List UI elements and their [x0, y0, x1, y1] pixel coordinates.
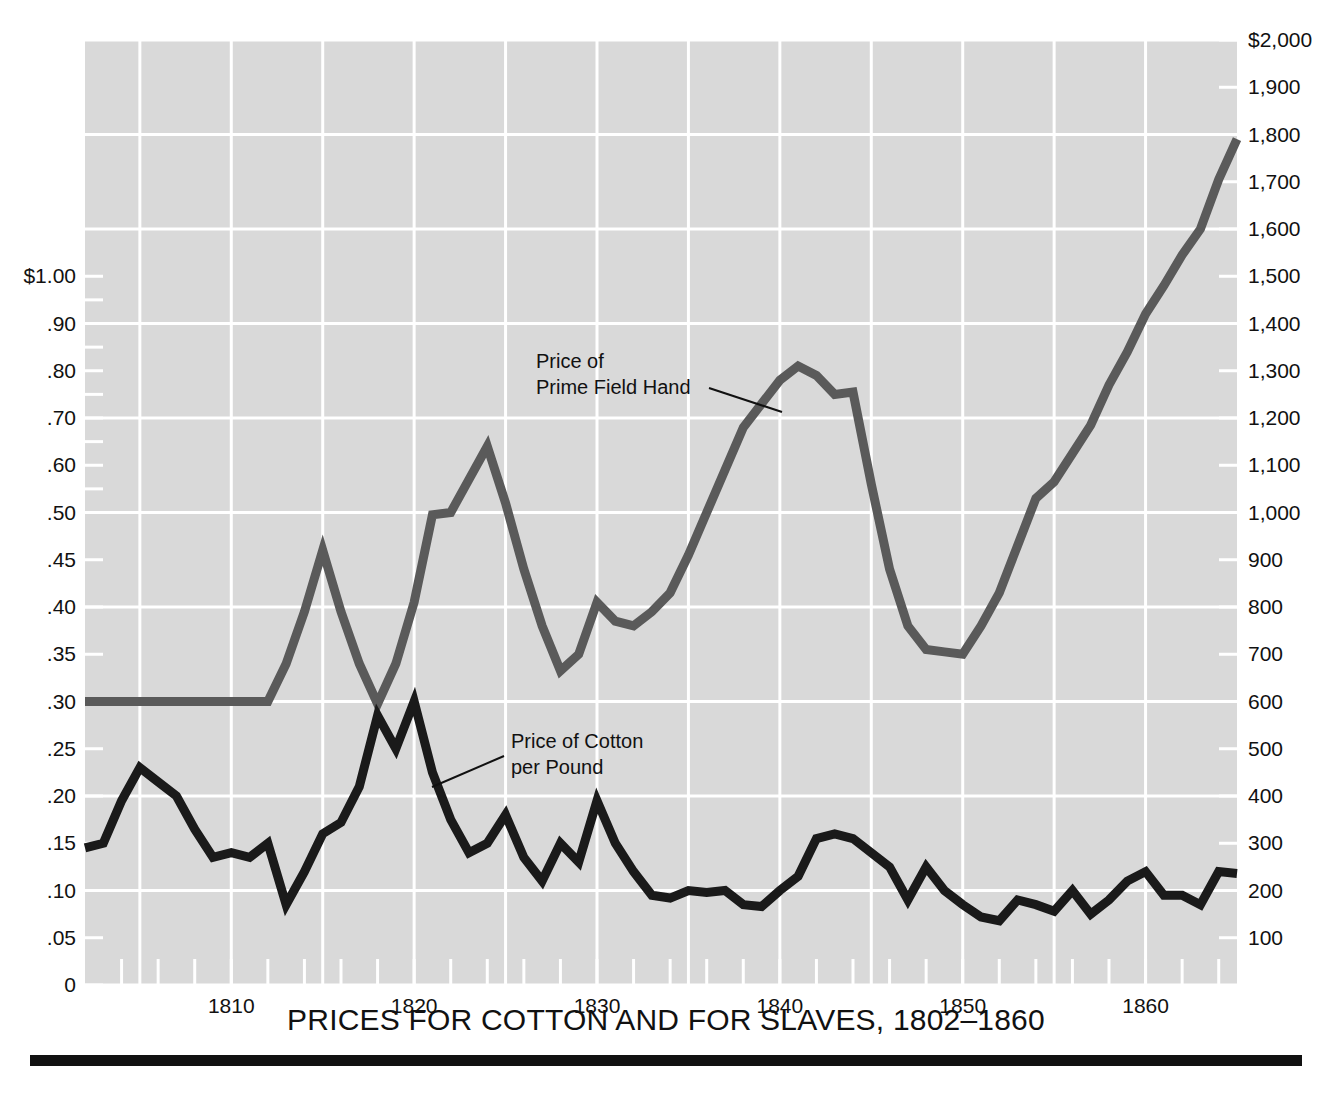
right-axis-tick-label: 1,200 — [1248, 406, 1301, 429]
left-axis-tick-label: .45 — [47, 548, 76, 571]
right-axis-tick-label: 500 — [1248, 737, 1283, 760]
left-axis-tick-label: 0 — [64, 973, 76, 996]
right-axis-tick-label: 1,500 — [1248, 264, 1301, 287]
right-axis-tick-label: 400 — [1248, 784, 1283, 807]
right-axis-tick-label: 300 — [1248, 831, 1283, 854]
right-axis-tick-label: 1,000 — [1248, 501, 1301, 524]
right-axis-tick-label: 1,400 — [1248, 312, 1301, 335]
left-axis-tick-label: .20 — [47, 784, 76, 807]
left-axis-tick-label: .50 — [47, 501, 76, 524]
left-axis-tick-label: .15 — [47, 831, 76, 854]
x-axis-tick-label: 1810 — [208, 994, 255, 1017]
x-axis-tick-label: 1860 — [1122, 994, 1169, 1017]
right-axis-tick-label: 1,900 — [1248, 75, 1301, 98]
left-axis-tick-label: .25 — [47, 737, 76, 760]
prices-cotton-slaves-chart: $1.00.90.80.70.60.50.45.40.35.30.25.20.1… — [0, 0, 1332, 1101]
left-axis-tick-label: $1.00 — [23, 264, 76, 287]
right-axis-tick-label: 1,100 — [1248, 453, 1301, 476]
right-axis-tick-label: 200 — [1248, 879, 1283, 902]
annotation-prime-field-hand-line2: Prime Field Hand — [536, 376, 691, 398]
bottom-rule — [30, 1055, 1302, 1066]
annotation-cotton-price-line2: per Pound — [511, 756, 603, 778]
chart-title: PRICES FOR COTTON AND FOR SLAVES, 1802–1… — [287, 1003, 1045, 1036]
right-axis-tick-label: 100 — [1248, 926, 1283, 949]
left-axis-tick-label: .80 — [47, 359, 76, 382]
right-axis-tick-label: $2,000 — [1248, 28, 1312, 51]
right-axis-tick-label: 600 — [1248, 690, 1283, 713]
left-axis-tick-label: .60 — [47, 453, 76, 476]
left-axis-tick-label: .35 — [47, 642, 76, 665]
right-axis-tick-label: 800 — [1248, 595, 1283, 618]
left-axis-tick-label: .10 — [47, 879, 76, 902]
right-axis-tick-label: 1,800 — [1248, 123, 1301, 146]
left-axis-tick-label: .30 — [47, 690, 76, 713]
right-axis-tick-label: 700 — [1248, 642, 1283, 665]
right-axis-tick-label: 1,700 — [1248, 170, 1301, 193]
annotation-cotton-price-line1: Price of Cotton — [511, 730, 643, 752]
left-axis-tick-label: .70 — [47, 406, 76, 429]
chart-figure: $1.00.90.80.70.60.50.45.40.35.30.25.20.1… — [0, 0, 1332, 1101]
right-axis-tick-label: 900 — [1248, 548, 1283, 571]
left-axis-tick-label: .90 — [47, 312, 76, 335]
right-axis-tick-label: 1,300 — [1248, 359, 1301, 382]
right-axis-tick-label: 1,600 — [1248, 217, 1301, 240]
annotation-prime-field-hand-line1: Price of — [536, 350, 604, 372]
left-axis-tick-label: .05 — [47, 926, 76, 949]
left-axis-tick-label: .40 — [47, 595, 76, 618]
